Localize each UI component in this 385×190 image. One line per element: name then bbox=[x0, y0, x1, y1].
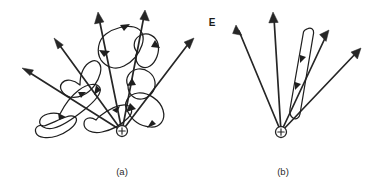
panel-a-loops bbox=[35, 24, 163, 138]
ray-1 bbox=[22, 68, 122, 131]
panel-a-rays bbox=[22, 10, 194, 131]
panel-a: (a) bbox=[22, 10, 194, 177]
ray-2 bbox=[269, 12, 281, 132]
figure-container: (a) E bbox=[0, 0, 385, 190]
field-line-diagram: (a) E bbox=[0, 0, 385, 190]
ray-1 bbox=[233, 25, 281, 132]
caption-panel-a: (a) bbox=[116, 166, 128, 177]
loop-right-lower bbox=[127, 69, 155, 99]
charge-marker-b bbox=[276, 127, 287, 138]
loop-outer-left bbox=[40, 84, 101, 128]
loop-small-left bbox=[35, 116, 76, 138]
caption-panel-b: (b) bbox=[277, 166, 289, 177]
field-label-E: E bbox=[209, 17, 216, 28]
charge-marker-a bbox=[117, 126, 128, 137]
panel-b: (b) bbox=[233, 12, 361, 177]
